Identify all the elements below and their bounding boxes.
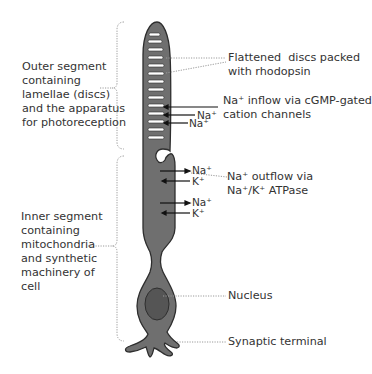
ion-k-inner-2: K⁺ [192, 208, 204, 219]
nucleus-shape [145, 288, 169, 320]
ion-k-inner-1: K⁺ [192, 176, 204, 187]
discs-label: Flattened discs packed with rhodopsin [228, 51, 360, 79]
synaptic-terminal-label: Synaptic terminal [228, 335, 327, 349]
outer-segment-label: Outer segment containing lamellae (discs… [22, 60, 126, 130]
inner-segment-label: Inner segment containing mitochondria an… [21, 210, 103, 294]
outflow-label: Na⁺ outflow via Na⁺/K⁺ ATPase [227, 170, 313, 198]
ion-na-outer-2: Na⁺ [189, 118, 209, 129]
nucleus-label: Nucleus [228, 289, 273, 303]
inflow-label: Na⁺ inflow via cGMP-gated cation channel… [223, 94, 372, 122]
inner-segment-brace [112, 156, 124, 341]
